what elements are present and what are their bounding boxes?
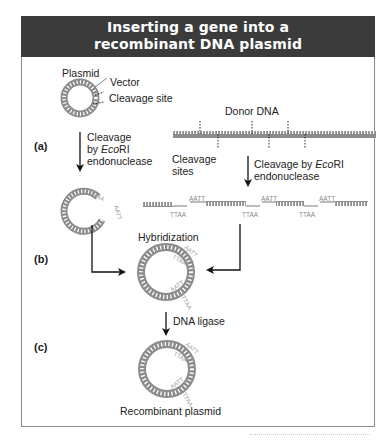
- sticky-end-top-3: AATT: [319, 193, 335, 205]
- arrow-vector-to-hybrid: [92, 225, 124, 272]
- sticky-end-bottom-3: TTAA: [299, 209, 315, 221]
- label-cleavage-right: Cleavage by EcoRI endonuclease: [254, 158, 344, 182]
- label-vector: Vector: [110, 76, 140, 88]
- arrow-donor-to-hybrid: [208, 224, 240, 270]
- step-b-label: (b): [34, 253, 48, 265]
- sticky-end-bottom-1: TTAA: [170, 209, 186, 221]
- plasmid-ring: [64, 82, 96, 114]
- svg-text:TTAA: TTAA: [90, 190, 106, 203]
- svg-text:AATT: AATT: [113, 205, 123, 221]
- label-donor-dna: Donor DNA: [225, 105, 279, 117]
- diagram-graphics: TTAA AATT AATT TTAA AATT TTAA: [0, 0, 390, 442]
- recombinant-plasmid: [142, 344, 192, 394]
- sticky-end-top-2: AATT: [261, 193, 277, 205]
- cropped-caption-remnant: [250, 434, 370, 439]
- label-cleavage-site: Cleavage site: [109, 92, 173, 104]
- label-recombinant-plasmid: Recombinant plasmid: [120, 405, 221, 417]
- hybrid-plasmid: [141, 247, 191, 297]
- step-a-label: (a): [34, 140, 47, 152]
- label-cleavage-left: Cleavage by EcoRI endonuclease: [87, 131, 152, 167]
- sticky-end-bottom-2: TTAA: [242, 209, 258, 221]
- step-c-label: (c): [34, 341, 47, 353]
- sticky-end-top-1: AATT: [189, 193, 205, 205]
- donor-dna: [173, 131, 376, 138]
- label-dna-ligase: DNA ligase: [173, 315, 225, 327]
- label-hybridization: Hybridization: [138, 231, 199, 243]
- label-plasmid: Plasmid: [62, 67, 99, 79]
- label-cleavage-sites: Cleavage sites: [172, 153, 216, 177]
- vector-pointer: [95, 78, 107, 87]
- svg-text:TTAA: TTAA: [180, 295, 193, 311]
